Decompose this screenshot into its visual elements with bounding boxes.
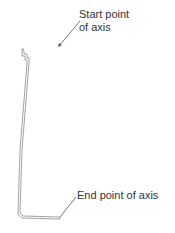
start-point-label: Start point of axis: [79, 8, 129, 34]
axis-profile: [18, 49, 60, 219]
end-point-label: End point of axis: [77, 189, 158, 202]
start-point-label-line1: Start point: [79, 8, 129, 21]
start-point-label-line2: of axis: [79, 21, 129, 34]
end-point-leader: [60, 197, 76, 217]
axis-diagram: Start point of axis End point of axis: [0, 0, 175, 233]
start-point-leader: [58, 21, 80, 47]
